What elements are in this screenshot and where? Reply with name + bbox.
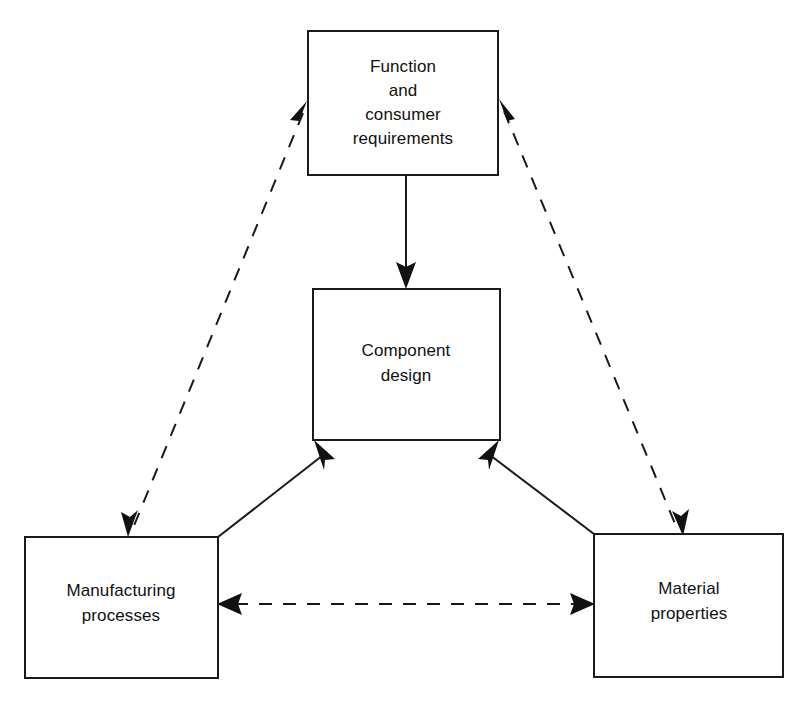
edge-function-material	[499, 99, 689, 536]
node-function-label-line-2: and	[389, 81, 418, 100]
node-material-label-line-1: Material	[658, 579, 719, 598]
arrowhead-upright-left	[314, 440, 335, 470]
node-manufacturing-processes[interactable]: Manufacturing processes	[25, 537, 218, 678]
node-component-design[interactable]: Component design	[313, 289, 500, 440]
diagram-canvas: Function and consumer requirements Compo…	[0, 0, 808, 701]
node-function-label-line-3: consumer	[365, 105, 441, 124]
node-component-design-box[interactable]	[313, 289, 500, 440]
node-material-properties[interactable]: Material properties	[594, 534, 783, 677]
node-function-box[interactable]	[308, 31, 498, 175]
arrowhead-down-right	[672, 509, 689, 536]
node-function-label-line-4: requirements	[353, 129, 453, 148]
arrowhead-up-right	[499, 99, 515, 131]
node-material-label-line-2: properties	[651, 604, 728, 623]
edge-function-component	[396, 174, 416, 289]
node-manufacturing-label-line-1: Manufacturing	[66, 581, 175, 600]
edge-material-component	[478, 440, 594, 534]
edge-function-manufacturing	[121, 101, 307, 537]
arrowhead-up-left	[290, 101, 307, 131]
arrowhead-upleft-right	[478, 440, 499, 470]
node-component-design-label-line-1: Component	[362, 341, 451, 360]
edge-manufacturing-component	[218, 440, 335, 537]
node-component-design-label-line-2: design	[381, 366, 432, 385]
node-function-and-consumer-requirements[interactable]: Function and consumer requirements	[308, 31, 498, 175]
node-function-label-line-1: Function	[370, 57, 436, 76]
node-manufacturing-label-line-2: processes	[82, 606, 160, 625]
edge-manufacturing-material	[217, 593, 595, 615]
